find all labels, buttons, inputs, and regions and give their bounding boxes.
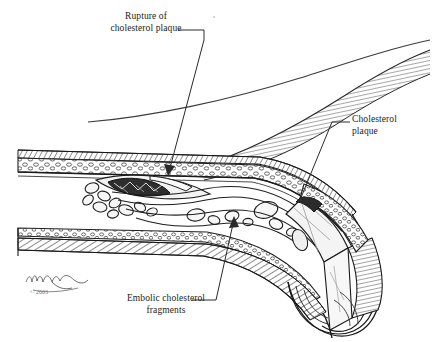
label-rupture-of-cholesterol-plaque: Rupture of cholesterol plaque (86, 11, 206, 34)
copyright-notice: © 2003 (30, 289, 48, 295)
label-cholesterol-plaque: Cholesterol plaque (352, 114, 432, 137)
label-embolic-cholesterol-fragments: Embolic cholesterol fragments (96, 293, 236, 316)
artery-illustration (0, 0, 437, 342)
vessel-cross-section-cutaway (286, 184, 382, 336)
illustration-canvas: Rupture of cholesterol plaque Cholestero… (0, 0, 437, 342)
